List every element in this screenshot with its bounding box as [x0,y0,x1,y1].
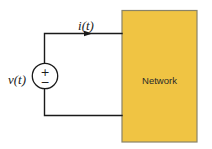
source-minus-sign: − [40,76,49,89]
network-label: Network [142,75,177,86]
bottom-wire [45,88,123,115]
current-label: i(t) [78,18,94,33]
voltage-label: v(t) [8,72,26,87]
circuit-diagram: Network i(t) + − v(t) [0,0,212,149]
circuit-diagram-canvas: Network i(t) + − v(t) [0,0,212,149]
top-wire [45,34,123,64]
